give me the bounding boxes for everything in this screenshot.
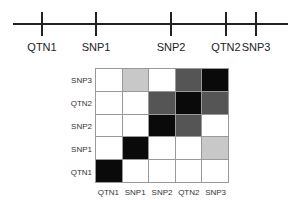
- ld-cell: [176, 137, 203, 160]
- ld-cell: [123, 115, 150, 138]
- col-label: QTN1: [98, 188, 119, 197]
- ld-cell: [149, 137, 176, 160]
- col-label: SNP1: [125, 188, 146, 197]
- ld-cell: [96, 69, 123, 92]
- ld-cell: [149, 115, 176, 138]
- ld-cell: [149, 69, 176, 92]
- ld-cell: [202, 92, 229, 115]
- marker-label: SNP3: [242, 41, 271, 53]
- ld-cell: [176, 160, 203, 183]
- marker-tick: [225, 12, 227, 36]
- row-label: QTN2: [71, 98, 92, 107]
- ld-cell: [176, 115, 203, 138]
- ld-cell: [123, 137, 150, 160]
- ld-cell: [202, 115, 229, 138]
- ld-cell: [123, 92, 150, 115]
- ld-cell: [149, 160, 176, 183]
- marker-tick: [41, 12, 43, 36]
- ld-cell: [176, 69, 203, 92]
- marker-label: QTN2: [211, 41, 240, 53]
- ld-cell: [202, 160, 229, 183]
- ld-cell: [202, 69, 229, 92]
- ld-cell: [96, 137, 123, 160]
- ld-cell: [96, 92, 123, 115]
- chromosome-axis-line: [13, 23, 288, 25]
- marker-label: SNP1: [82, 41, 111, 53]
- row-label: SNP2: [71, 121, 92, 130]
- col-label: SNP3: [205, 188, 226, 197]
- col-label: SNP2: [152, 188, 173, 197]
- marker-label: QTN1: [27, 41, 56, 53]
- col-label: QTN2: [178, 188, 199, 197]
- marker-tick: [170, 12, 172, 36]
- ld-cell: [202, 137, 229, 160]
- ld-cell: [96, 115, 123, 138]
- ld-cell: [123, 69, 150, 92]
- row-label: SNP3: [71, 75, 92, 84]
- ld-heatmap-grid: [95, 68, 229, 183]
- row-label: SNP1: [71, 144, 92, 153]
- ld-cell: [176, 92, 203, 115]
- row-label: QTN1: [71, 167, 92, 176]
- marker-tick: [95, 12, 97, 36]
- marker-tick: [255, 12, 257, 36]
- ld-cell: [123, 160, 150, 183]
- ld-cell: [149, 92, 176, 115]
- ld-cell: [96, 160, 123, 183]
- marker-label: SNP2: [157, 41, 186, 53]
